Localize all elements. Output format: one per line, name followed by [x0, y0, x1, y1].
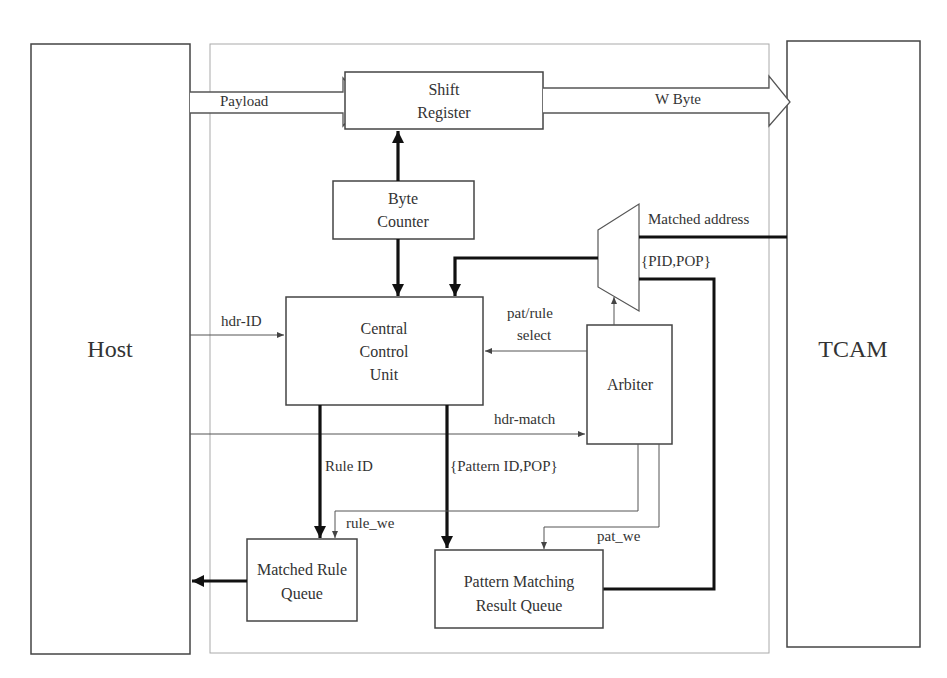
tcam-label: TCAM: [818, 336, 887, 364]
w-byte-label: W Byte: [655, 91, 701, 108]
pmrq-label-2: Result Queue: [476, 597, 563, 615]
hdr-id-label: hdr-ID: [221, 313, 262, 330]
byte-counter-label-1: Byte: [388, 190, 418, 208]
host-label: Host: [87, 336, 132, 364]
pat-we-label: pat_we: [597, 528, 640, 545]
shift-register-label-1: Shift: [428, 81, 459, 99]
matched-rule-queue-label-1: Matched Rule: [257, 561, 347, 579]
rule-we-label: rule_we: [346, 515, 394, 532]
pmrq-label-1: Pattern Matching: [464, 573, 575, 591]
arbiter-label: Arbiter: [607, 376, 653, 394]
byte-counter-label-2: Counter: [377, 213, 429, 231]
matched-rule-queue-block: [247, 539, 357, 621]
pat-rule-select-label-2: select: [517, 327, 551, 344]
pattern-id-pop-label: {Pattern ID,POP}: [450, 458, 558, 475]
pid-pop-label: {PID,POP}: [641, 253, 711, 270]
ccu-label-3: Unit: [370, 366, 398, 384]
shift-register-label-2: Register: [417, 104, 470, 122]
hdr-match-label: hdr-match: [494, 411, 555, 428]
pat-rule-select-label-1: pat/rule: [507, 305, 553, 322]
matched-address-label: Matched address: [648, 211, 749, 228]
rule-id-label: Rule ID: [325, 458, 373, 475]
mux-to-ccu-arrow: [455, 258, 598, 296]
payload-label: Payload: [220, 93, 268, 110]
ccu-label-1: Central: [360, 320, 407, 338]
mux-block: [598, 204, 639, 311]
ccu-label-2: Control: [360, 343, 409, 361]
payload-bus-arrow: [190, 78, 365, 126]
matched-rule-queue-label-2: Queue: [281, 585, 323, 603]
